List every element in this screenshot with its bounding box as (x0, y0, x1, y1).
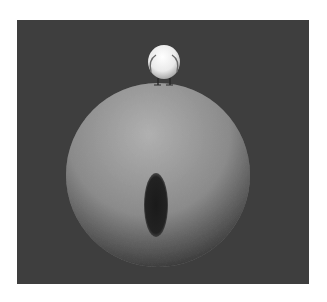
bird-character (148, 45, 180, 85)
sphere-hole (144, 173, 168, 237)
scene-render (0, 0, 327, 302)
bird-body (148, 45, 180, 79)
